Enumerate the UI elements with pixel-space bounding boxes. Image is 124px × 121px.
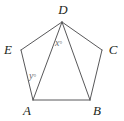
edge-BC [90,50,102,100]
angle-y-degree-symbol: ° [33,73,36,81]
vertex-label-D: D [57,2,68,17]
angle-x-degree-symbol: ° [59,40,62,48]
diagonal-DA [33,22,62,100]
angle-label-x: x° [54,37,62,48]
vertex-label-B: B [93,103,101,118]
geometry-figure: D E C A B x° y° [0,0,124,121]
vertex-label-A: A [22,103,31,118]
diagonal-DB [62,22,90,100]
vertex-label-E: E [3,42,12,57]
pentagon-diagram: D E C A B x° y° [0,0,124,121]
edge-CD [62,22,102,50]
vertex-label-C: C [109,42,118,57]
angle-label-y: y° [28,70,36,81]
